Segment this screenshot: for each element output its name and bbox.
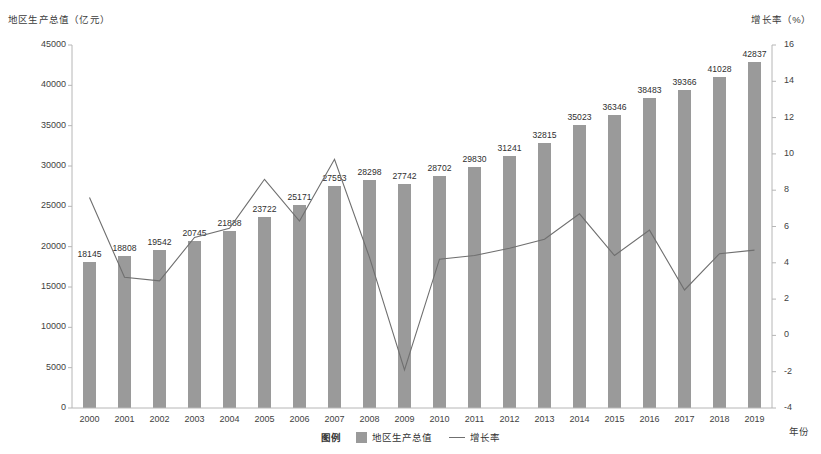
x-tick-label: 2016 [630, 414, 670, 424]
bar [223, 231, 236, 408]
x-tick-label: 2001 [105, 414, 145, 424]
right-tick-label: 0 [784, 329, 814, 339]
x-tick-label: 2018 [700, 414, 740, 424]
bar [258, 217, 271, 408]
left-tick-label: 30000 [20, 160, 66, 170]
legend-label-bar: 地区生产总值 [372, 430, 432, 444]
bar [643, 98, 656, 408]
bar-value-label: 19542 [138, 237, 182, 247]
x-tick-label: 2006 [280, 414, 320, 424]
right-tick-label: -2 [784, 366, 814, 376]
bar-value-label: 23722 [243, 204, 287, 214]
right-tick-label: 10 [784, 148, 814, 158]
bar [538, 143, 551, 408]
bar [398, 184, 411, 408]
axis-lines [68, 45, 776, 408]
left-tick-label: 45000 [20, 39, 66, 49]
right-tick-label: 14 [784, 75, 814, 85]
legend-item-bar[interactable]: 地区生产总值 [356, 430, 432, 444]
bar [748, 62, 761, 408]
x-tick-label: 2013 [525, 414, 565, 424]
bar-value-label: 39366 [663, 77, 707, 87]
x-tick-label: 2008 [350, 414, 390, 424]
x-tick-label: 2014 [560, 414, 600, 424]
x-tick-label: 2017 [665, 414, 705, 424]
left-tick-label: 25000 [20, 200, 66, 210]
bar [503, 156, 516, 408]
bar-value-label: 32815 [523, 130, 567, 140]
x-tick-label: 2007 [315, 414, 355, 424]
left-tick-label: 15000 [20, 281, 66, 291]
bar-value-label: 35023 [558, 112, 602, 122]
x-tick-label: 2009 [385, 414, 425, 424]
bar [608, 115, 621, 408]
bar [293, 205, 306, 408]
bar [363, 180, 376, 408]
bar-value-label: 41028 [698, 64, 742, 74]
x-tick-label: 2003 [175, 414, 215, 424]
left-axis-title: 地区生产总值（亿元） [8, 12, 110, 26]
legend-label-line: 增长率 [470, 430, 500, 444]
bar [118, 256, 131, 408]
x-tick-label: 2005 [245, 414, 285, 424]
left-tick-label: 5000 [20, 362, 66, 372]
bar [328, 186, 341, 408]
right-tick-label: 6 [784, 221, 814, 231]
left-tick-label: 0 [20, 402, 66, 412]
bar-value-label: 20745 [173, 228, 217, 238]
line-swatch-icon [449, 437, 465, 438]
chart-container: 地区生产总值（亿元） 增长率（%） 年份 0500010000150002000… [0, 0, 821, 454]
right-tick-label: 16 [784, 39, 814, 49]
bar [188, 241, 201, 408]
bar [468, 167, 481, 408]
bar-value-label: 25171 [278, 192, 322, 202]
right-tick-label: 4 [784, 257, 814, 267]
x-tick-label: 2010 [420, 414, 460, 424]
x-tick-label: 2015 [595, 414, 635, 424]
x-tick-label: 2004 [210, 414, 250, 424]
right-tick-label: 12 [784, 112, 814, 122]
x-tick-label: 2002 [140, 414, 180, 424]
bar [713, 77, 726, 408]
bar-value-label: 28702 [418, 163, 462, 173]
legend-title: 图例 [321, 430, 341, 444]
bar-swatch-icon [356, 432, 367, 443]
right-tick-label: 8 [784, 184, 814, 194]
bar [678, 90, 691, 408]
left-tick-label: 20000 [20, 241, 66, 251]
right-tick-label: -4 [784, 402, 814, 412]
bar-value-label: 36346 [593, 102, 637, 112]
right-axis-title: 增长率（%） [751, 12, 811, 26]
bar-value-label: 29830 [453, 154, 497, 164]
bar [433, 176, 446, 408]
left-tick-label: 10000 [20, 321, 66, 331]
right-tick-label: 2 [784, 293, 814, 303]
x-tick-label: 2011 [455, 414, 495, 424]
x-tick-label: 2019 [735, 414, 775, 424]
bar-value-label: 42837 [733, 49, 777, 59]
chart-legend: 图例 地区生产总值 增长率 [0, 430, 821, 444]
bar [573, 125, 586, 408]
bar-value-label: 21888 [208, 218, 252, 228]
legend-item-line[interactable]: 增长率 [441, 430, 500, 444]
bar [153, 250, 166, 408]
bar [83, 262, 96, 408]
bar-value-label: 31241 [488, 143, 532, 153]
x-tick-label: 2012 [490, 414, 530, 424]
x-tick-label: 2000 [70, 414, 110, 424]
left-tick-label: 40000 [20, 79, 66, 89]
left-tick-label: 35000 [20, 120, 66, 130]
